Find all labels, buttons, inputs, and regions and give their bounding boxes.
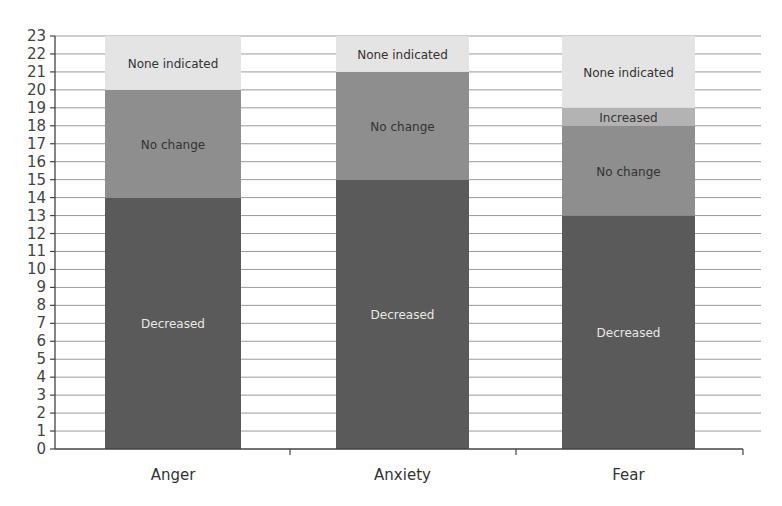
y-tick-label: 5 <box>36 350 46 368</box>
segment-label: Decreased <box>141 317 205 331</box>
y-tick-label: 18 <box>27 117 46 135</box>
y-tick-label: 19 <box>27 99 46 117</box>
y-tick-label: 2 <box>36 404 46 422</box>
y-axis-tick-labels: 01234567891011121314151617181920212223 <box>27 27 46 458</box>
y-tick-label: 4 <box>36 368 46 386</box>
y-tick-label: 9 <box>36 278 46 296</box>
segment-label: Increased <box>599 111 657 125</box>
y-tick-label: 16 <box>27 153 46 171</box>
y-tick-label: 3 <box>36 386 46 404</box>
segment-label: None indicated <box>128 57 219 71</box>
segment-label: None indicated <box>357 48 448 62</box>
y-tick-label: 15 <box>27 171 46 189</box>
y-tick-label: 11 <box>27 242 46 260</box>
segment-label: No change <box>596 165 660 179</box>
y-tick-label: 6 <box>36 332 46 350</box>
y-tick-label: 7 <box>36 314 46 332</box>
segment-label: None indicated <box>583 66 674 80</box>
y-tick-label: 17 <box>27 135 46 153</box>
y-tick-label: 20 <box>27 81 46 99</box>
segment-label: No change <box>370 120 434 134</box>
y-tick-label: 23 <box>27 27 46 45</box>
y-tick-label: 1 <box>36 422 46 440</box>
y-tick-label: 22 <box>27 45 46 63</box>
y-tick-label: 12 <box>27 225 46 243</box>
bar-fear: DecreasedNo changeIncreasedNone indicate… <box>562 36 695 449</box>
y-tick-label: 8 <box>36 296 46 314</box>
x-category-label: Fear <box>612 466 645 484</box>
bar-anxiety: DecreasedNo changeNone indicated <box>336 36 469 449</box>
bar-anger: DecreasedNo changeNone indicated <box>105 36 241 449</box>
segment-label: No change <box>141 138 205 152</box>
segment-label: Decreased <box>371 308 435 322</box>
y-tick-label: 13 <box>27 207 46 225</box>
x-category-label: Anxiety <box>374 466 431 484</box>
segment-label: Decreased <box>597 326 661 340</box>
y-tick-label: 10 <box>27 260 46 278</box>
y-tick-label: 14 <box>27 189 46 207</box>
x-axis-category-labels: AngerAnxietyFear <box>151 466 646 484</box>
y-tick-label: 0 <box>36 440 46 458</box>
bars: DecreasedNo changeNone indicatedDecrease… <box>105 36 695 449</box>
stacked-bar-chart: DecreasedNo changeNone indicatedDecrease… <box>0 0 782 506</box>
y-tick-label: 21 <box>27 63 46 81</box>
x-category-label: Anger <box>151 466 197 484</box>
